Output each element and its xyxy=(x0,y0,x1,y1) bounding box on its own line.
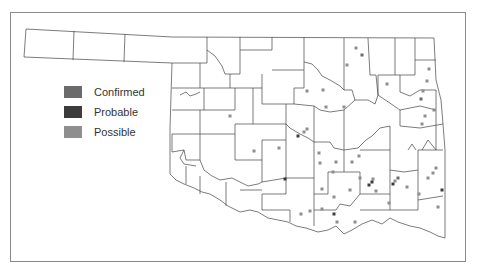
marker-possible xyxy=(358,155,361,158)
marker-possible xyxy=(406,186,409,189)
marker-possible xyxy=(428,68,431,71)
marker-possible xyxy=(278,147,281,150)
marker-possible xyxy=(318,152,321,155)
marker-possible xyxy=(300,213,303,216)
marker-possible xyxy=(333,196,336,199)
marker-probable xyxy=(392,183,395,186)
marker-possible xyxy=(375,190,378,193)
marker-probable xyxy=(284,178,287,181)
probable-swatch-icon xyxy=(64,106,82,118)
marker-possible xyxy=(418,193,421,196)
marker-possible xyxy=(426,80,429,83)
marker-possible xyxy=(335,161,338,164)
marker-possible xyxy=(321,188,324,191)
marker-possible xyxy=(349,189,352,192)
marker-possible xyxy=(437,206,440,209)
marker-probable xyxy=(333,213,336,216)
marker-possible xyxy=(359,177,362,180)
marker-confirmed xyxy=(361,54,364,57)
marker-possible xyxy=(319,162,322,165)
marker-possible xyxy=(433,109,436,112)
marker-possible xyxy=(388,202,391,205)
legend-label: Probable xyxy=(94,106,138,118)
marker-probable xyxy=(371,181,374,184)
marker-possible xyxy=(421,123,424,126)
marker-possible xyxy=(321,208,324,211)
marker-possible xyxy=(229,115,232,118)
legend-label: Confirmed xyxy=(94,86,145,98)
marker-probable xyxy=(297,135,300,138)
marker-possible xyxy=(386,83,389,86)
marker-possible xyxy=(336,221,339,224)
markers-layer xyxy=(229,47,444,224)
legend-item-confirmed: Confirmed xyxy=(64,82,145,102)
marker-possible xyxy=(354,221,357,224)
marker-possible xyxy=(424,115,427,118)
legend-label: Possible xyxy=(94,126,136,138)
marker-possible xyxy=(355,47,358,50)
marker-possible xyxy=(346,64,349,67)
marker-possible xyxy=(306,90,309,93)
marker-possible xyxy=(309,210,312,213)
marker-possible xyxy=(332,171,335,174)
marker-possible xyxy=(322,89,325,92)
marker-confirmed xyxy=(420,98,423,101)
marker-confirmed xyxy=(397,177,400,180)
marker-possible xyxy=(435,167,438,170)
legend-item-probable: Probable xyxy=(64,102,145,122)
possible-swatch-icon xyxy=(64,126,82,138)
legend-item-possible: Possible xyxy=(64,122,145,142)
marker-possible xyxy=(427,177,430,180)
marker-possible xyxy=(343,106,346,109)
marker-possible xyxy=(394,180,397,183)
legend: Confirmed Probable Possible xyxy=(64,82,145,142)
marker-probable xyxy=(368,184,371,187)
marker-possible xyxy=(422,90,425,93)
marker-possible xyxy=(306,128,309,131)
marker-possible xyxy=(303,131,306,134)
confirmed-swatch-icon xyxy=(64,86,82,98)
marker-possible xyxy=(351,161,354,164)
marker-possible xyxy=(372,178,375,181)
marker-probable xyxy=(441,189,444,192)
marker-possible xyxy=(432,172,435,175)
marker-possible xyxy=(325,106,328,109)
marker-possible xyxy=(253,150,256,153)
